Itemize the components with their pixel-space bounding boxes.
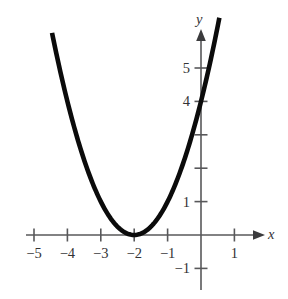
y-tick-label-pos1: 1 xyxy=(168,194,190,209)
x-tick-label-neg3: −3 xyxy=(93,246,108,261)
y-tick-label-neg1: −1 xyxy=(168,261,190,276)
parabola-curve xyxy=(52,18,219,235)
x-tick-label-neg4: −4 xyxy=(60,246,75,261)
y-axis-label: y xyxy=(196,12,202,27)
x-tick-label-pos1: 1 xyxy=(231,246,238,261)
x-axis-arrow-icon xyxy=(253,230,265,240)
y-axis-arrow-icon xyxy=(196,29,206,41)
coordinate-plane-svg xyxy=(0,0,288,299)
parabola-graph-figure: −5 −4 −3 −2 −1 1 −1 1 4 5 x y xyxy=(0,0,288,299)
x-axis-label: x xyxy=(268,227,274,242)
y-tick-label-pos5: 5 xyxy=(168,61,190,76)
x-tick-label-neg1: −1 xyxy=(160,246,175,261)
x-tick-label-neg2: −2 xyxy=(126,246,141,261)
x-tick-label-neg5: −5 xyxy=(26,246,41,261)
y-tick-label-pos4: 4 xyxy=(168,94,190,109)
